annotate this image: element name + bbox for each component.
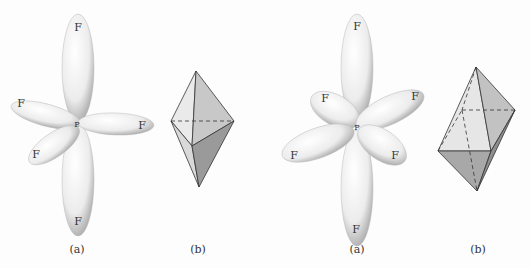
ligand-label: F bbox=[17, 97, 25, 110]
ligand-label: F bbox=[32, 148, 40, 161]
trigonal-bipyramid bbox=[171, 71, 234, 187]
ligand-label: F bbox=[353, 20, 361, 33]
ligand-label: F bbox=[411, 90, 419, 103]
ligand-label: F bbox=[138, 119, 146, 132]
diagram-canvas bbox=[0, 0, 530, 268]
caption-a: (a) bbox=[349, 243, 364, 256]
center-atom-label: P bbox=[74, 120, 79, 129]
pf5-orbital-diagram bbox=[8, 14, 154, 236]
center-atom-label: P bbox=[354, 123, 359, 132]
octahedral-orbital-diagram bbox=[277, 14, 429, 246]
ligand-label: F bbox=[74, 21, 82, 34]
caption-a: (a) bbox=[69, 243, 84, 256]
ligand-label: F bbox=[290, 149, 298, 162]
caption-b: (b) bbox=[470, 243, 486, 256]
caption-b: (b) bbox=[190, 243, 206, 256]
ligand-label: F bbox=[74, 215, 82, 228]
ligand-label: F bbox=[391, 149, 399, 162]
octahedron bbox=[438, 67, 515, 191]
ligand-label: F bbox=[352, 223, 360, 236]
ligand-label: F bbox=[321, 92, 329, 105]
